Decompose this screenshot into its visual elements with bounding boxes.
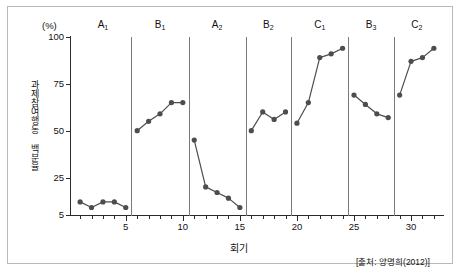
x-tick-label: 5 [114, 221, 138, 232]
phase-label-subscript: 2 [270, 24, 274, 31]
phase-series-a1 [78, 199, 129, 210]
phase-label-subscript: 2 [218, 24, 222, 31]
x-tick-mark-minor [92, 216, 93, 219]
x-tick-mark-minor [377, 216, 378, 219]
chart-figure: (%) 과제참여행동 백분율 5255075100 51015202530 A1… [0, 0, 461, 275]
phase-label-base: B [366, 19, 373, 30]
series-line [194, 140, 240, 207]
x-tick-mark-minor [137, 216, 138, 219]
data-point [237, 205, 242, 210]
x-axis-title: 회기 [8, 240, 461, 255]
x-tick-mark-minor [228, 216, 229, 219]
x-tick-label: 10 [171, 221, 195, 232]
x-tick-mark-minor [343, 216, 344, 219]
phase-label-a2: A2 [212, 19, 223, 30]
phase-label-b3: B3 [366, 19, 377, 30]
x-tick-mark-minor [251, 216, 252, 219]
x-tick-label: 30 [399, 221, 423, 232]
data-point [340, 46, 345, 51]
x-tick-mark-minor [274, 216, 275, 219]
phase-label-subscript: 2 [418, 24, 422, 31]
x-tick-mark-minor [434, 216, 435, 219]
y-tick-label: 5 [32, 210, 64, 220]
x-tick-mark-minor [114, 216, 115, 219]
phase-label-b2: B2 [263, 19, 274, 30]
phase-label-base: A [98, 19, 105, 30]
data-point [249, 128, 254, 133]
phase-label-base: B [263, 19, 270, 30]
data-point [112, 199, 117, 204]
data-point [363, 102, 368, 107]
data-point [272, 117, 277, 122]
x-tick-mark-minor [308, 216, 309, 219]
data-point [135, 128, 140, 133]
series-line [251, 112, 285, 131]
source-note: [출처: 양명희(2012)] [356, 255, 430, 267]
x-tick-mark-minor [422, 216, 423, 219]
phase-label-subscript: 1 [104, 24, 108, 31]
data-point [157, 111, 162, 116]
y-tick-mark [66, 215, 70, 216]
x-tick-mark-minor [365, 216, 366, 219]
y-tick-label-text: 5 [36, 210, 64, 219]
x-tick-mark-minor [194, 216, 195, 219]
y-tick-label: 50 [32, 126, 64, 136]
data-point [100, 199, 105, 204]
phase-series-b2 [249, 109, 288, 133]
phase-label-a1: A1 [98, 19, 109, 30]
data-point [214, 190, 219, 195]
phase-label-base: A [212, 19, 219, 30]
data-point [329, 51, 334, 56]
data-point [283, 109, 288, 114]
data-point [180, 100, 185, 105]
data-point [431, 46, 436, 51]
x-tick-mark-minor [160, 216, 161, 219]
data-point [226, 196, 231, 201]
phase-series-c2 [397, 46, 436, 98]
data-point [146, 119, 151, 124]
data-point [89, 205, 94, 210]
data-point [306, 100, 311, 105]
data-point [192, 137, 197, 142]
x-tick-mark-minor [103, 216, 104, 219]
data-point [317, 55, 322, 60]
data-point [260, 109, 265, 114]
y-tick-label: 25 [32, 173, 64, 183]
y-tick-mark [66, 131, 70, 132]
x-tick-label: 15 [228, 221, 252, 232]
y-tick-mark [66, 178, 70, 179]
data-point [408, 59, 413, 64]
data-point [203, 184, 208, 189]
y-tick-mark [66, 37, 70, 38]
data-point [351, 92, 356, 97]
x-tick-mark-minor [263, 216, 264, 219]
series-line [354, 95, 388, 117]
data-point [420, 55, 425, 60]
plot-area [71, 37, 443, 215]
data-point [78, 199, 83, 204]
x-tick-mark-minor [320, 216, 321, 219]
phase-series-b1 [135, 100, 186, 133]
data-series-svg [71, 37, 443, 215]
series-line [137, 103, 183, 131]
data-point [294, 121, 299, 126]
x-tick-label: 25 [342, 221, 366, 232]
x-tick-mark-minor [217, 216, 218, 219]
phase-series-a2 [192, 137, 243, 210]
data-point [374, 111, 379, 116]
phase-label-base: B [155, 19, 162, 30]
x-tick-mark-minor [388, 216, 389, 219]
x-tick-mark-minor [206, 216, 207, 219]
y-axis-unit-label: (%) [42, 20, 57, 31]
x-tick-mark-minor [400, 216, 401, 219]
y-tick-label: 100 [32, 32, 64, 42]
phase-label-subscript: 1 [321, 24, 325, 31]
phase-label-c1: C1 [314, 19, 325, 30]
data-point [169, 100, 174, 105]
x-tick-mark-minor [286, 216, 287, 219]
x-tick-mark-minor [149, 216, 150, 219]
phase-label-c2: C2 [411, 19, 422, 30]
phase-series-c1 [294, 46, 345, 126]
y-tick-mark [66, 84, 70, 85]
x-tick-mark-minor [80, 216, 81, 219]
